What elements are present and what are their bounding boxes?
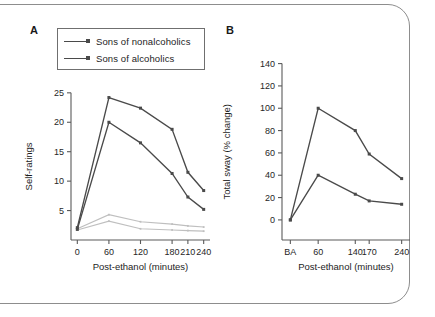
panel-a-chart: 510152025060120180210240Post-ethanol (mi… (18, 74, 218, 289)
data-point-marker (317, 107, 320, 110)
x-axis-title: Post-ethanol (minutes) (93, 261, 189, 272)
x-tick-label: 180 (165, 247, 180, 257)
data-point-marker (354, 129, 357, 132)
legend-item-label: Sons of alcoholics (96, 53, 174, 64)
data-point-marker (186, 196, 189, 199)
data-point-marker (108, 220, 110, 222)
y-tick-label: 100 (260, 103, 275, 113)
series-line (290, 175, 401, 220)
legend-line-icon (64, 54, 90, 64)
y-tick-label: 60 (265, 148, 275, 158)
x-tick-label: BA (284, 247, 296, 257)
data-point-marker (187, 225, 189, 227)
data-point-marker (107, 121, 110, 124)
x-tick-label: 0 (75, 247, 80, 257)
data-point-marker (140, 228, 142, 230)
data-point-marker (317, 174, 320, 177)
data-point-marker (187, 230, 189, 232)
y-tick-label: 120 (260, 81, 275, 91)
panel-a-label: A (30, 24, 38, 36)
data-point-marker (139, 107, 142, 110)
legend-item-alcoholics: Sons of alcoholics (64, 50, 198, 67)
data-point-marker (108, 214, 110, 216)
panel-b-chart: 020406080100120140BA60140170240Post-etha… (214, 44, 419, 289)
y-tick-label: 25 (54, 88, 64, 98)
series-line (77, 98, 203, 228)
data-point-marker (368, 153, 371, 156)
legend-item-label: Sons of nonalcoholics (96, 36, 191, 47)
data-point-marker (202, 208, 205, 211)
x-tick-label: 240 (196, 247, 211, 257)
data-point-marker (203, 226, 205, 228)
data-point-marker (289, 218, 292, 221)
data-point-marker (171, 172, 174, 175)
figure-page: A B Sons of nonalcoholics Sons of alcoho… (0, 0, 435, 317)
x-tick-label: 240 (394, 247, 409, 257)
data-point-marker (203, 230, 205, 232)
y-tick-label: 0 (270, 215, 275, 225)
data-point-marker (202, 189, 205, 192)
data-point-marker (139, 141, 142, 144)
data-point-marker (368, 199, 371, 202)
y-axis-title: Self-ratings (23, 142, 34, 190)
y-tick-label: 20 (54, 117, 64, 127)
data-point-marker (107, 96, 110, 99)
data-point-marker (354, 193, 357, 196)
legend-item-nonalcoholics: Sons of nonalcoholics (64, 33, 198, 50)
y-tick-label: 5 (59, 206, 64, 216)
data-point-marker (186, 171, 189, 174)
series-line (77, 122, 203, 229)
y-tick-label: 40 (265, 170, 275, 180)
legend-line-icon (64, 37, 90, 47)
data-point-marker (140, 221, 142, 223)
data-point-marker (400, 177, 403, 180)
x-tick-label: 140 (348, 247, 363, 257)
x-tick-label: 60 (104, 247, 114, 257)
y-tick-label: 10 (54, 176, 64, 186)
y-tick-label: 140 (260, 59, 275, 69)
x-tick-label: 60 (313, 247, 323, 257)
data-point-marker (400, 203, 403, 206)
y-tick-label: 20 (265, 193, 275, 203)
data-point-marker (171, 128, 174, 131)
panel-b-label: B (226, 24, 234, 36)
x-tick-label: 120 (133, 247, 148, 257)
data-point-marker (171, 229, 173, 231)
y-tick-label: 15 (54, 147, 64, 157)
x-tick-label: 210 (180, 247, 195, 257)
x-tick-label: 170 (362, 247, 377, 257)
data-point-marker (171, 223, 173, 225)
y-tick-label: 80 (265, 126, 275, 136)
chart-legend: Sons of nonalcoholics Sons of alcoholics (57, 28, 205, 70)
data-point-marker (76, 228, 79, 231)
x-axis-title: Post-ethanol (minutes) (298, 261, 394, 272)
y-axis-title: Total sway (% change) (221, 104, 232, 200)
